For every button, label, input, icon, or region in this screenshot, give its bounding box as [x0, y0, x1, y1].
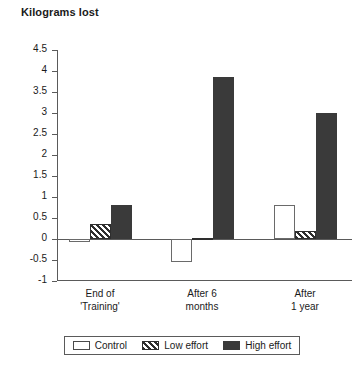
legend-item-control[interactable]: Control	[73, 340, 127, 351]
category-label-line: End of	[50, 288, 150, 301]
chart-legend: ControlLow effortHigh effort	[64, 336, 300, 355]
y-axis-tick: -1	[52, 281, 57, 282]
bar-chart: Kilograms lost 4.543.532.521.510.50-0.5-…	[0, 0, 363, 366]
legend-swatch-icon	[223, 341, 240, 350]
y-axis-tick-label: 1.5	[33, 169, 47, 180]
bar-control	[171, 239, 192, 262]
category-label-line: months	[152, 301, 252, 314]
category-label-line: After	[255, 288, 355, 301]
bar-low-effort	[295, 231, 316, 239]
y-axis-tick: 4.5	[52, 50, 57, 51]
y-axis-tick-label: -1	[38, 274, 47, 285]
y-axis-tick: 1.5	[52, 176, 57, 177]
legend-item-low-effort[interactable]: Low effort	[142, 340, 208, 351]
y-axis-tick-label: 2	[41, 148, 47, 159]
category-label-line: After 6	[152, 288, 252, 301]
category-label-line: 'Training'	[50, 301, 150, 314]
legend-label: High effort	[245, 340, 291, 351]
y-axis-tick: 1	[52, 197, 57, 198]
bar-low-effort	[192, 238, 213, 240]
y-axis-tick-label: 3.5	[33, 85, 47, 96]
y-axis-tick-label: -0.5	[30, 253, 47, 264]
legend-item-high-effort[interactable]: High effort	[223, 340, 291, 351]
x-axis-category-label: After1 year	[255, 288, 355, 313]
y-axis-tick: 3	[52, 113, 57, 114]
legend-swatch-icon	[142, 341, 159, 350]
bar-high-effort	[111, 205, 132, 239]
y-axis-tick: 4	[52, 71, 57, 72]
legend-swatch-icon	[73, 341, 90, 350]
y-axis-tick: -0.5	[52, 260, 57, 261]
x-axis-category-label: After 6months	[152, 288, 252, 313]
bar-high-effort	[316, 113, 337, 239]
plot-area: 4.543.532.521.510.50-0.5-1	[57, 50, 352, 281]
y-axis-tick: 0.5	[52, 218, 57, 219]
y-axis-tick: 2.5	[52, 134, 57, 135]
y-axis-tick-label: 1	[41, 190, 47, 201]
y-axis-tick-label: 0.5	[33, 211, 47, 222]
y-axis-tick: 2	[52, 155, 57, 156]
y-axis-tick-label: 4	[41, 64, 47, 75]
bar-control	[274, 205, 295, 239]
legend-label: Low effort	[164, 340, 208, 351]
y-axis-tick-label: 0	[41, 232, 47, 243]
chart-title: Kilograms lost	[21, 6, 99, 18]
bar-high-effort	[213, 77, 234, 239]
y-axis-tick-label: 4.5	[33, 43, 47, 54]
bar-low-effort	[90, 224, 111, 239]
y-axis-tick-label: 3	[41, 106, 47, 117]
bar-control	[69, 239, 90, 242]
y-axis-tick-label: 2.5	[33, 127, 47, 138]
x-axis-category-label: End of'Training'	[50, 288, 150, 313]
category-label-line: 1 year	[255, 301, 355, 314]
legend-label: Control	[95, 340, 127, 351]
y-axis-tick: 3.5	[52, 92, 57, 93]
